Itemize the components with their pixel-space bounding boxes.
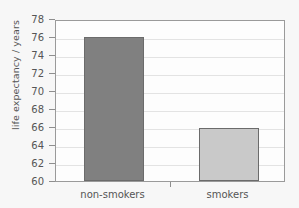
y-axis-tick: 68	[0, 104, 55, 116]
y-axis-tick-label: 66	[4, 122, 44, 134]
y-axis-tick-label: 60	[4, 176, 44, 188]
bar-non-smokers	[84, 37, 144, 181]
y-axis-tick: 60	[0, 176, 55, 188]
y-axis-tick: 64	[0, 140, 55, 152]
y-axis-tick-label: 74	[4, 50, 44, 62]
y-axis-tick: 72	[0, 68, 55, 80]
y-axis-tick: 76	[0, 32, 55, 44]
y-axis-tick: 78	[0, 14, 55, 26]
y-axis-tick-label: 68	[4, 104, 44, 116]
x-axis-category-label: smokers	[170, 188, 285, 202]
y-axis-tick-label: 76	[4, 32, 44, 44]
y-axis-tick: 66	[0, 122, 55, 134]
plot-area	[55, 20, 285, 182]
y-axis-tick-label: 78	[4, 14, 44, 26]
y-axis-tick-label: 64	[4, 140, 44, 152]
y-axis-tick: 70	[0, 86, 55, 98]
y-axis-tick-label: 72	[4, 68, 44, 80]
y-axis-tick-label: 62	[4, 158, 44, 170]
x-axis-category-label: non-smokers	[55, 188, 170, 202]
y-axis-tick-label: 70	[4, 86, 44, 98]
bar-chart-figure: life expectancy / years 6062646668707274…	[0, 0, 299, 208]
bar-smokers	[199, 128, 259, 181]
y-axis-tick: 62	[0, 158, 55, 170]
x-axis-tick-mark	[170, 182, 171, 187]
y-axis-tick: 74	[0, 50, 55, 62]
